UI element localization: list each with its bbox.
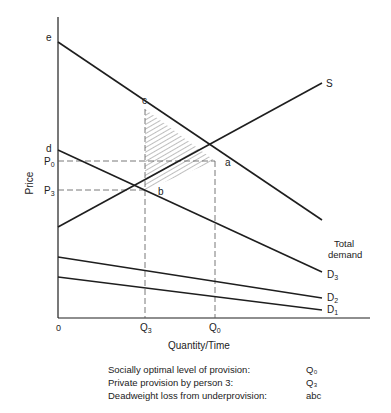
d1-demand-curve: [58, 277, 322, 310]
x-axis-label: Quantity/Time: [168, 340, 230, 351]
legend-row-deadweight: Deadweight loss from underprovision: abc: [108, 389, 321, 402]
legend: Socially optimal level of provision: Q₀ …: [108, 363, 321, 402]
legend-key: Socially optimal level of provision:: [108, 363, 306, 376]
legend-value: Q₀: [306, 363, 317, 376]
supply-curve: [58, 83, 322, 227]
p3-label: P3: [44, 185, 55, 197]
d2-label: D2: [327, 292, 338, 304]
deadweight-loss-area: [145, 109, 215, 190]
y-axis-label: Price: [24, 171, 35, 194]
legend-key: Deadweight loss from underprovision:: [108, 389, 306, 402]
legend-value: abc: [306, 389, 321, 402]
total-demand-curve: [58, 42, 322, 220]
point-a-label: a: [225, 157, 231, 168]
d1-label: D1: [327, 304, 338, 316]
legend-value: Q₃: [306, 376, 317, 389]
p0-label: P0: [44, 156, 55, 168]
legend-row-optimal: Socially optimal level of provision: Q₀: [108, 363, 321, 376]
supply-label: S: [326, 78, 333, 89]
d3-label: D3: [327, 269, 338, 281]
point-c-label: c: [142, 95, 147, 106]
origin-label: 0: [56, 323, 61, 333]
q0-label: Q0: [209, 322, 221, 334]
legend-key: Private provision by person 3:: [108, 376, 306, 389]
point-b-label: b: [158, 186, 164, 197]
legend-row-private: Private provision by person 3: Q₃: [108, 376, 321, 389]
point-e-label: e: [46, 32, 52, 43]
point-d-label: d: [46, 143, 52, 154]
q3-label: Q3: [140, 322, 152, 334]
total-demand-label-line2: demand: [328, 249, 362, 260]
d2-demand-curve: [58, 257, 322, 298]
diagram-canvas: Price e d c a b P0 P3 0 Q3 Q0 S Total de…: [0, 0, 391, 413]
total-demand-label-line1: Total: [334, 238, 354, 249]
